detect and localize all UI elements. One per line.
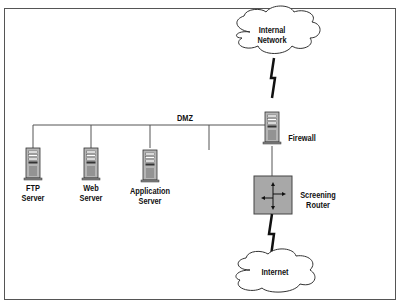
internal-network-line2: Network — [256, 35, 289, 45]
router-icon — [254, 176, 292, 214]
ftp-server-icon — [24, 148, 42, 180]
web-server-icon — [82, 148, 100, 180]
ftp-server-line2: Server — [17, 193, 50, 203]
app-server-line1: Application — [125, 186, 174, 196]
router-line1: Screening — [298, 190, 337, 200]
router-line2: Router — [298, 200, 337, 210]
app-server-label: Application Server — [125, 186, 174, 206]
internet-label: Internet — [259, 267, 292, 277]
lightning-bolt-bottom — [269, 214, 274, 256]
firewall-icon — [263, 112, 281, 144]
internal-network-label: Internal Network — [256, 25, 289, 45]
ftp-server-label: FTP Server — [17, 183, 50, 203]
app-server-line2: Server — [125, 196, 174, 206]
router-label: Screening Router — [298, 190, 337, 210]
web-server-label: Web Server — [75, 183, 108, 203]
ftp-server-line1: FTP — [17, 183, 50, 193]
firewall-label: Firewall — [286, 133, 319, 143]
web-server-line2: Server — [75, 193, 108, 203]
dmz-label: DMZ — [173, 113, 198, 123]
app-server-icon — [141, 150, 159, 182]
network-diagram — [0, 0, 400, 307]
web-server-line1: Web — [75, 183, 108, 193]
internal-network-line1: Internal — [256, 25, 289, 35]
lightning-bolt-top — [271, 58, 275, 98]
